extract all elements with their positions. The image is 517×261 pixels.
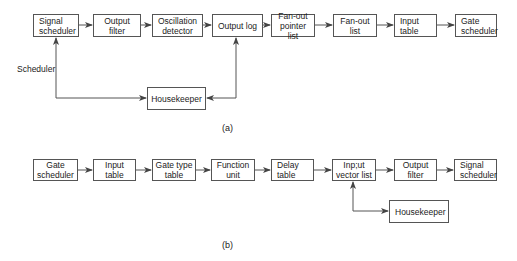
box-b-delay-table: Delay table (271, 159, 314, 181)
box-b-input-table: Input table (93, 159, 136, 181)
caption-a: (a) (222, 123, 233, 133)
box-a-output-filter: Output filter (93, 14, 141, 37)
box-a-fan-out-list: Fan-out list (333, 14, 377, 37)
box-a-gate-scheduler: Gate scheduler (455, 14, 497, 37)
box-b-function-unit: Function unit (211, 159, 255, 181)
box-b-input-vector-list: Inp;ut vector list (332, 159, 376, 181)
box-b-signal-scheduler: Signal scheduler (454, 159, 497, 181)
box-a-fan-out-pointer-list: Fan-out pointer list (271, 14, 315, 37)
caption-b: (b) (222, 240, 233, 250)
box-a-output-log: Output log (212, 14, 263, 37)
scheduler-label: Scheduler (17, 64, 55, 74)
box-a-housekeeper: Housekeeper (147, 87, 206, 110)
box-a-signal-scheduler: Signal scheduler (33, 14, 79, 37)
box-b-output-filter: Output filter (394, 159, 437, 181)
box-a-oscillation-detector: Oscillation detector (152, 14, 203, 37)
box-b-gate-scheduler: Gate scheduler (33, 159, 78, 181)
box-b-gate-type-table: Gate type table (152, 159, 196, 181)
box-a-input-table: Input table (394, 14, 437, 37)
box-b-housekeeper: Housekeeper (389, 200, 449, 223)
